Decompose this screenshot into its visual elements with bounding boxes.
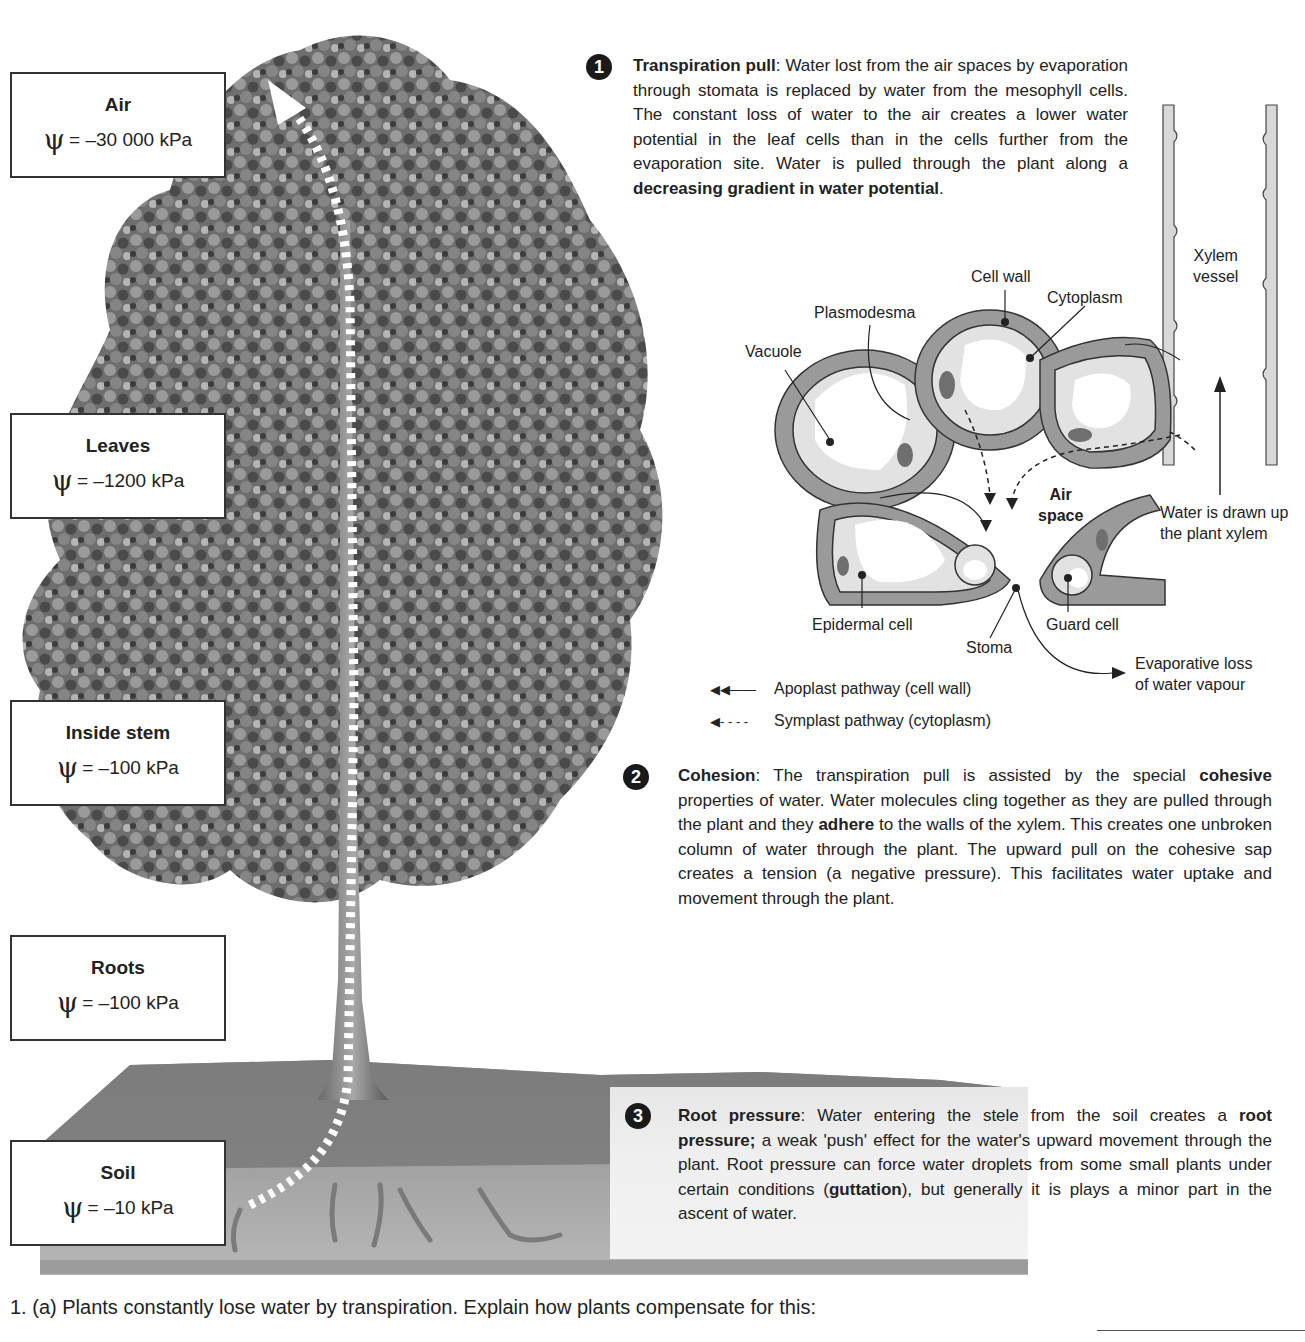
root-pressure-paragraph: Root pressure: Water entering the stele …: [678, 1104, 1272, 1227]
apoplast-arrow-icon: ◀◀——: [710, 682, 774, 697]
label-guard-cell: Guard cell: [1046, 614, 1119, 635]
potential-box-soil: Soil ψ= –10 kPa: [10, 1140, 226, 1246]
label-evaporative-loss: Evaporative lossof water vapour: [1135, 653, 1252, 695]
legend-label: Symplast pathway (cytoplasm): [774, 712, 991, 729]
step-number-badge: 2: [623, 764, 649, 790]
label-cytoplasm: Cytoplasm: [1047, 287, 1123, 308]
label-xylem-vessel: Xylemvessel: [1193, 245, 1238, 287]
potential-box-roots: Roots ψ= –100 kPa: [10, 935, 226, 1041]
symplast-arrow-icon: ◀- - - -: [710, 714, 774, 729]
section-title: Transpiration pull: [633, 56, 776, 75]
potential-value: = –100 kPa: [82, 992, 179, 1013]
step-number-badge: 1: [586, 54, 612, 80]
legend-symplast: ◀- - - -Symplast pathway (cytoplasm): [710, 712, 991, 730]
potential-box-inside-stem: Inside stem ψ= –100 kPa: [10, 700, 226, 806]
potential-value: = –30 000 kPa: [69, 129, 192, 150]
label-stoma: Stoma: [966, 637, 1012, 658]
psi-symbol: ψ: [62, 1192, 83, 1223]
question-1a: 1. (a) Plants constantly lose water by t…: [10, 1296, 816, 1319]
potential-location: Air: [12, 94, 224, 116]
potential-box-leaves: Leaves ψ= –1200 kPa: [10, 413, 226, 519]
section-title: Root pressure: [678, 1106, 801, 1125]
label-cell-wall: Cell wall: [971, 266, 1031, 287]
potential-value: = –100 kPa: [82, 757, 179, 778]
label-epidermal-cell: Epidermal cell: [812, 614, 912, 635]
answer-line[interactable]: [1097, 1330, 1305, 1331]
potential-location: Inside stem: [12, 722, 224, 744]
potential-location: Leaves: [12, 435, 224, 457]
label-air-space: Airspace: [1038, 484, 1083, 526]
label-plasmodesma: Plasmodesma: [814, 302, 915, 323]
potential-location: Roots: [12, 957, 224, 979]
label-vacuole: Vacuole: [745, 341, 802, 362]
potential-value: = –10 kPa: [88, 1197, 174, 1218]
psi-symbol: ψ: [57, 987, 78, 1018]
potential-location: Soil: [12, 1162, 224, 1184]
legend-apoplast: ◀◀——Apoplast pathway (cell wall): [710, 680, 971, 698]
psi-symbol: ψ: [57, 752, 78, 783]
leaf-cell-diagram: [700, 90, 1305, 690]
section-title: Cohesion: [678, 766, 755, 785]
psi-symbol: ψ: [52, 465, 73, 496]
potential-box-air: Air ψ= –30 000 kPa: [10, 72, 226, 178]
legend-label: Apoplast pathway (cell wall): [774, 680, 971, 697]
psi-symbol: ψ: [44, 124, 65, 155]
step-number-badge: 3: [625, 1103, 651, 1129]
cohesion-paragraph: Cohesion: The transpiration pull is assi…: [678, 764, 1272, 911]
label-water-drawn-up: Water is drawn upthe plant xylem: [1160, 502, 1288, 544]
potential-value: = –1200 kPa: [77, 470, 184, 491]
